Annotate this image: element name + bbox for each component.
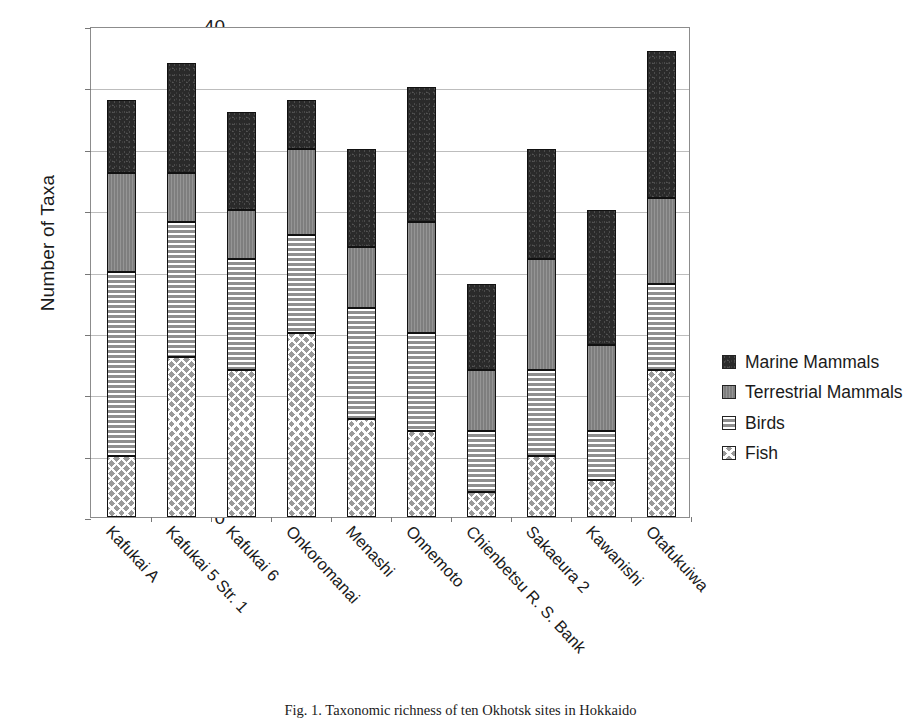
bar-segment-fish[interactable]: [347, 419, 376, 517]
legend-item[interactable]: Marine Mammals: [722, 352, 917, 373]
bar-segment-terrestrial[interactable]: [347, 247, 376, 308]
x-axis-tick-mark: [631, 517, 632, 522]
bar-segment-fish[interactable]: [467, 492, 496, 517]
x-axis-tick-mark: [331, 517, 332, 522]
bar-segment-birds[interactable]: [407, 333, 436, 431]
bar-segment-terrestrial[interactable]: [287, 149, 316, 235]
plot-area: [90, 27, 690, 518]
bar-column[interactable]: [107, 28, 136, 517]
bar-segment-marine[interactable]: [227, 112, 256, 210]
x-axis-tick-mark: [271, 517, 272, 522]
x-axis-category-label: Kawanishi: [582, 522, 647, 590]
bar-column[interactable]: [587, 28, 616, 517]
legend-label: Birds: [745, 413, 785, 434]
bar-segment-terrestrial[interactable]: [407, 222, 436, 332]
bar-segment-birds[interactable]: [527, 370, 556, 456]
bar-segment-terrestrial[interactable]: [167, 173, 196, 222]
bar-segment-fish[interactable]: [227, 370, 256, 517]
legend-item[interactable]: Terrestrial Mammals: [722, 382, 917, 403]
bar-segment-birds[interactable]: [467, 431, 496, 492]
bar-segment-terrestrial[interactable]: [467, 370, 496, 431]
bar-segment-marine[interactable]: [107, 100, 136, 174]
bar-column[interactable]: [167, 28, 196, 517]
bar-segment-fish[interactable]: [107, 456, 136, 517]
legend-label: Terrestrial Mammals: [745, 382, 903, 403]
bar-segment-fish[interactable]: [407, 431, 436, 517]
x-axis-category-label: Onnemoto: [402, 522, 468, 591]
bar-segment-marine[interactable]: [347, 149, 376, 247]
legend-swatch-marine-icon: [722, 355, 736, 369]
x-axis-category-label: Otafukuiwa: [642, 522, 712, 595]
x-axis-category-label: Menashi: [342, 522, 398, 581]
x-axis-tick-mark: [391, 517, 392, 522]
bar-segment-terrestrial[interactable]: [527, 259, 556, 369]
x-axis-tick-mark: [691, 517, 692, 522]
y-axis-title: Number of Taxa: [37, 133, 59, 353]
bar-segment-fish[interactable]: [587, 480, 616, 517]
bar-segment-birds[interactable]: [347, 308, 376, 418]
x-axis-tick-mark: [451, 517, 452, 522]
y-axis-tick-mark: [85, 519, 91, 520]
x-axis-category-label: Kafukai A: [102, 522, 163, 586]
bar-segment-marine[interactable]: [407, 87, 436, 222]
bar-segment-fish[interactable]: [527, 456, 556, 517]
bar-segment-marine[interactable]: [647, 51, 676, 198]
x-axis-tick-mark: [211, 517, 212, 522]
bar-series-layer: [91, 28, 689, 517]
bar-column[interactable]: [407, 28, 436, 517]
bar-segment-marine[interactable]: [527, 149, 556, 259]
legend-item[interactable]: Fish: [722, 443, 917, 464]
bar-segment-terrestrial[interactable]: [647, 198, 676, 284]
legend-label: Marine Mammals: [745, 352, 879, 373]
figure-container: Number of Taxa 4035302520151050 Kafukai …: [0, 0, 921, 723]
bar-segment-birds[interactable]: [227, 259, 256, 369]
bar-segment-marine[interactable]: [467, 284, 496, 370]
bar-segment-birds[interactable]: [167, 222, 196, 357]
legend-label: Fish: [745, 443, 778, 464]
bar-column[interactable]: [287, 28, 316, 517]
bar-segment-terrestrial[interactable]: [587, 345, 616, 431]
bar-segment-birds[interactable]: [647, 284, 676, 370]
bar-column[interactable]: [467, 28, 496, 517]
x-axis-category-label: Kafukai 6: [222, 522, 283, 585]
x-axis-tick-mark: [571, 517, 572, 522]
bar-segment-terrestrial[interactable]: [227, 210, 256, 259]
bar-column[interactable]: [227, 28, 256, 517]
legend-item[interactable]: Birds: [722, 413, 917, 434]
bar-segment-birds[interactable]: [107, 272, 136, 456]
bar-column[interactable]: [347, 28, 376, 517]
figure-caption: Fig. 1. Taxonomic richness of ten Okhots…: [0, 702, 921, 723]
bar-segment-fish[interactable]: [647, 370, 676, 517]
chart-legend: Marine MammalsTerrestrial MammalsBirdsFi…: [722, 352, 917, 473]
x-axis-tick-mark: [511, 517, 512, 522]
bar-segment-birds[interactable]: [587, 431, 616, 480]
x-axis-category-label: Chienbetsu R. S. Bank: [462, 522, 590, 657]
bar-segment-marine[interactable]: [167, 63, 196, 173]
legend-swatch-terrestrial-icon: [722, 385, 736, 399]
legend-swatch-birds-icon: [722, 416, 736, 430]
bar-segment-marine[interactable]: [287, 100, 316, 149]
bar-column[interactable]: [527, 28, 556, 517]
x-axis-tick-mark: [151, 517, 152, 522]
legend-swatch-fish-icon: [722, 446, 736, 460]
bar-column[interactable]: [647, 28, 676, 517]
bar-segment-fish[interactable]: [167, 357, 196, 517]
bar-segment-terrestrial[interactable]: [107, 173, 136, 271]
bar-segment-fish[interactable]: [287, 333, 316, 517]
bar-segment-marine[interactable]: [587, 210, 616, 345]
bar-segment-birds[interactable]: [287, 235, 316, 333]
